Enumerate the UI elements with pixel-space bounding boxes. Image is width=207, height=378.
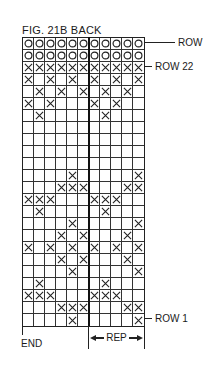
stitch-cell: [122, 302, 133, 314]
stitch-cell: [67, 194, 78, 206]
cross-stitch-icon: [134, 267, 143, 276]
stitch-cell: [100, 242, 111, 254]
stitch-cell: [111, 218, 122, 230]
stitch-cell: [133, 74, 144, 86]
stitch-cell: [89, 302, 100, 314]
stitch-cell: [67, 134, 78, 146]
stitch-cell: [122, 290, 133, 302]
cross-stitch-icon: [90, 195, 99, 204]
stitch-cell: [67, 122, 78, 134]
stitch-cell: [23, 170, 34, 182]
cross-stitch-icon: [101, 291, 110, 300]
stitch-cell: [122, 242, 133, 254]
cross-stitch-icon: [79, 303, 88, 312]
cross-stitch-icon: [46, 243, 55, 252]
stitch-cell: [34, 38, 45, 50]
circle-stitch-icon: [35, 51, 44, 60]
cross-stitch-icon: [68, 316, 77, 325]
stitch-cell: [45, 134, 56, 146]
cross-stitch-icon: [24, 63, 33, 72]
cross-stitch-icon: [134, 171, 143, 180]
stitch-cell: [133, 230, 144, 242]
circle-stitch-icon: [101, 39, 110, 48]
stitch-cell: [111, 242, 122, 254]
stitch-cell: [122, 266, 133, 278]
stitch-cell: [100, 170, 111, 182]
cross-stitch-icon: [134, 63, 143, 72]
stitch-cell: [89, 194, 100, 206]
stitch-cell: [56, 146, 67, 158]
stitch-cell: [122, 206, 133, 218]
stitch-cell: [45, 170, 56, 182]
cross-stitch-icon: [68, 267, 77, 276]
stitch-cell: [23, 50, 34, 62]
stitch-cell: [100, 254, 111, 266]
stitch-cell: [67, 74, 78, 86]
row-label-top: ROW: [145, 37, 202, 48]
stitch-cell: [111, 122, 122, 134]
stitch-cell: [89, 278, 100, 290]
stitch-cell: [56, 38, 67, 50]
circle-stitch-icon: [57, 51, 66, 60]
stitch-cell: [89, 158, 100, 170]
stitch-cell: [67, 158, 78, 170]
stitch-cell: [89, 98, 100, 110]
stitch-cell: [67, 62, 78, 74]
cross-stitch-icon: [134, 243, 143, 252]
circle-stitch-icon: [68, 51, 77, 60]
stitch-cell: [122, 182, 133, 194]
stitch-cell: [111, 110, 122, 122]
stitch-cell: [89, 314, 100, 326]
stitch-cell: [34, 242, 45, 254]
stitch-cell: [56, 242, 67, 254]
stitch-cell: [45, 122, 56, 134]
cross-stitch-icon: [35, 87, 44, 96]
stitch-cell: [122, 134, 133, 146]
stitch-cell: [111, 134, 122, 146]
stitch-cell: [67, 242, 78, 254]
cross-stitch-icon: [24, 99, 33, 108]
stitch-cell: [133, 86, 144, 98]
stitch-cell: [89, 242, 100, 254]
stitch-cell: [122, 50, 133, 62]
cross-stitch-icon: [123, 63, 132, 72]
stitch-cell: [23, 314, 34, 326]
stitch-cell: [23, 230, 34, 242]
stitch-cell: [45, 218, 56, 230]
stitch-cell: [34, 110, 45, 122]
stitch-cell: [45, 98, 56, 110]
stitch-cell: [133, 62, 144, 74]
cross-stitch-icon: [24, 243, 33, 252]
stitch-cell: [23, 194, 34, 206]
cross-stitch-icon: [90, 99, 99, 108]
stitch-cell: [122, 170, 133, 182]
repeat-divider-line: [88, 37, 90, 326]
cross-stitch-icon: [101, 279, 110, 288]
stitch-cell: [67, 278, 78, 290]
stitch-cell: [56, 278, 67, 290]
stitch-cell: [100, 158, 111, 170]
stitch-cell: [100, 74, 111, 86]
cross-stitch-icon: [134, 316, 143, 325]
stitch-cell: [89, 218, 100, 230]
cross-stitch-icon: [68, 75, 77, 84]
cross-stitch-icon: [35, 63, 44, 72]
stitch-cell: [89, 146, 100, 158]
stitch-cell: [56, 290, 67, 302]
stitch-cell: [89, 86, 100, 98]
stitch-cell: [122, 158, 133, 170]
stitch-cell: [34, 62, 45, 74]
stitch-cell: [133, 50, 144, 62]
stitch-cell: [34, 254, 45, 266]
cross-stitch-icon: [79, 183, 88, 192]
stitch-cell: [34, 230, 45, 242]
stitch-cell: [89, 182, 100, 194]
stitch-cell: [34, 278, 45, 290]
stitch-cell: [89, 266, 100, 278]
stitch-cell: [34, 266, 45, 278]
stitch-cell: [111, 74, 122, 86]
stitch-cell: [23, 98, 34, 110]
stitch-cell: [67, 182, 78, 194]
stitch-cell: [34, 182, 45, 194]
cross-stitch-icon: [57, 255, 66, 264]
